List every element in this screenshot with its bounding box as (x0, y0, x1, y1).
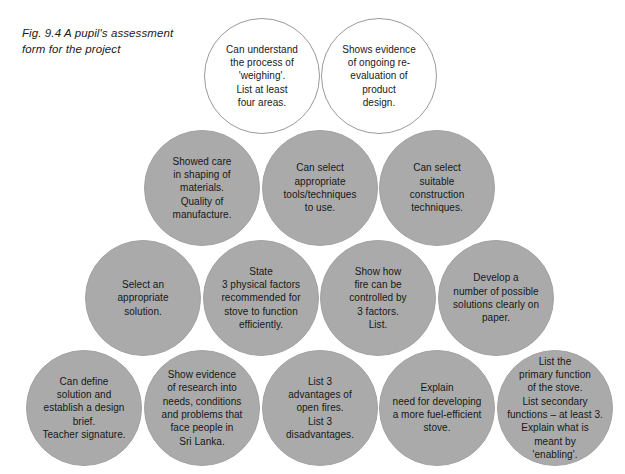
bubble-r4-c1-text: Can define solution and establish a desi… (33, 375, 135, 441)
bubble-r1-c1-text: Can understand the process of 'weighing'… (211, 43, 313, 109)
bubble-r4-c2-text: Show evidence of research into needs, co… (151, 368, 253, 448)
bubble-r4-c5[interactable]: List the primary function of the stove. … (497, 350, 613, 466)
bubble-r4-c3-text: List 3 advantages of open fires. List 3 … (269, 375, 371, 441)
figure-caption: Fig. 9.4 A pupil's assessment form for t… (22, 26, 212, 57)
bubble-r2-c1[interactable]: Showed care in shaping of materials. Qua… (144, 130, 260, 246)
bubble-r3-c2[interactable]: State 3 physical factors recommended for… (203, 240, 319, 356)
bubble-r3-c4[interactable]: Develop a number of possible solutions c… (438, 240, 554, 356)
bubble-r4-c4-text: Explain need for developing a more fuel-… (386, 381, 488, 434)
bubble-r3-c3[interactable]: Show how fire can be controlled by 3 fac… (320, 240, 436, 356)
bubble-r3-c2-text: State 3 physical factors recommended for… (210, 265, 312, 331)
bubble-r2-c2[interactable]: Can select appropriate tools/techniques … (262, 130, 378, 246)
bubble-r4-c1[interactable]: Can define solution and establish a desi… (26, 350, 142, 466)
bubble-r2-c3-text: Can select suitable construction techniq… (386, 161, 488, 214)
bubble-r2-c1-text: Showed care in shaping of materials. Qua… (151, 155, 253, 221)
bubble-r1-c2-text: Shows evidence of ongoing re- evaluation… (328, 43, 430, 109)
bubble-r4-c3[interactable]: List 3 advantages of open fires. List 3 … (262, 350, 378, 466)
bubble-r1-c1[interactable]: Can understand the process of 'weighing'… (204, 18, 320, 134)
bubble-r3-c3-text: Show how fire can be controlled by 3 fac… (327, 265, 429, 331)
bubble-r4-c4[interactable]: Explain need for developing a more fuel-… (379, 350, 495, 466)
bubble-r4-c5-text: List the primary function of the stove. … (504, 355, 606, 461)
bubble-r1-c2[interactable]: Shows evidence of ongoing re- evaluation… (321, 18, 437, 134)
bubble-r3-c4-text: Develop a number of possible solutions c… (445, 271, 547, 324)
bubble-r3-c1-text: Select an appropriate solution. (92, 278, 194, 318)
bubble-r2-c2-text: Can select appropriate tools/techniques … (269, 161, 371, 214)
assessment-form-figure: Fig. 9.4 A pupil's assessment form for t… (0, 0, 625, 474)
bubble-r4-c2[interactable]: Show evidence of research into needs, co… (144, 350, 260, 466)
bubble-r2-c3[interactable]: Can select suitable construction techniq… (379, 130, 495, 246)
bubble-r3-c1[interactable]: Select an appropriate solution. (85, 240, 201, 356)
